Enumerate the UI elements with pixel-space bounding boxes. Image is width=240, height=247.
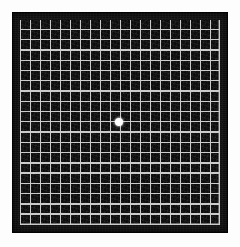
amsler-grid-page bbox=[0, 0, 240, 247]
grid-border-panel bbox=[12, 12, 228, 233]
grid-field bbox=[20, 20, 220, 225]
fixation-dot bbox=[115, 118, 123, 126]
